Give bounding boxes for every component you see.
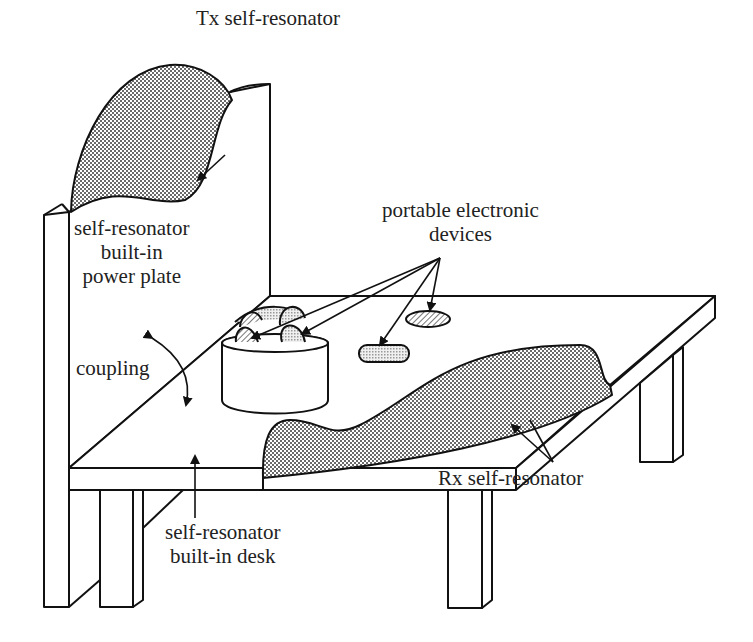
portable-devices-label: portable electronic devices <box>382 198 539 246</box>
rx-label: Rx self-resonator <box>438 466 583 490</box>
device-pill <box>359 345 409 362</box>
device-ellipse <box>406 311 450 327</box>
coupling-label: coupling <box>76 356 150 380</box>
tx-label: Tx self-resonator <box>196 6 340 30</box>
desk-label: self-resonator built-in desk <box>165 520 280 568</box>
power-plate-label: self-resonator built-in power plate <box>74 216 189 288</box>
wpt-desk-diagram <box>0 0 753 642</box>
